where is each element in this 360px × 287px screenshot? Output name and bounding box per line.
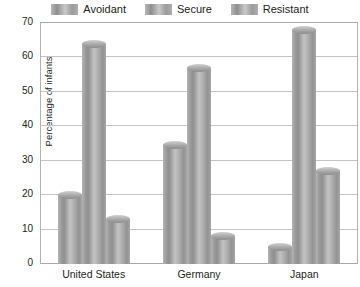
bar-cap	[163, 141, 187, 149]
bar-group-united-states	[41, 23, 146, 264]
bar-body	[292, 30, 316, 264]
x-tick-label-japan: Japan	[252, 268, 357, 280]
bar-avoidant-germany[interactable]	[163, 23, 187, 264]
bar-body	[211, 236, 235, 264]
bars-layer	[41, 23, 357, 264]
bar-cap	[292, 26, 316, 34]
y-axis-tick-labels: 706050403020100	[0, 22, 36, 264]
bar-group-japan	[252, 23, 357, 264]
bar-cap	[82, 40, 106, 48]
bar-body	[58, 195, 82, 264]
legend-item-secure[interactable]: Secure	[145, 4, 212, 15]
chart-legend: Avoidant Secure Resistant	[0, 0, 360, 18]
bar-chart: Avoidant Secure Resistant Percentage of …	[0, 0, 360, 287]
bar-cap	[187, 64, 211, 72]
y-tick-label-20: 20	[22, 189, 33, 199]
y-tick-label-60: 60	[22, 51, 33, 61]
bar-body	[316, 171, 340, 264]
x-tick-label-germany: Germany	[146, 268, 251, 280]
legend-swatch-secure	[145, 4, 172, 15]
bar-body	[82, 44, 106, 264]
bar-cap	[211, 232, 235, 240]
bar-secure-germany[interactable]	[187, 23, 211, 264]
bar-group-germany	[146, 23, 251, 264]
bar-resistant-japan[interactable]	[316, 23, 340, 264]
y-tick-label-10: 10	[22, 224, 33, 234]
bar-body	[163, 145, 187, 264]
bar-avoidant-united-states[interactable]	[58, 23, 82, 264]
legend-label-secure: Secure	[177, 4, 212, 15]
legend-label-resistant: Resistant	[263, 4, 309, 15]
bar-avoidant-japan[interactable]	[268, 23, 292, 264]
legend-label-avoidant: Avoidant	[83, 4, 126, 15]
y-tick-label-0: 0	[27, 258, 33, 268]
y-tick-label-50: 50	[22, 86, 33, 96]
y-tick-label-30: 30	[22, 155, 33, 165]
legend-item-avoidant[interactable]: Avoidant	[51, 4, 126, 15]
bar-cap	[268, 243, 292, 251]
bar-secure-japan[interactable]	[292, 23, 316, 264]
bar-resistant-germany[interactable]	[211, 23, 235, 264]
y-tick-label-70: 70	[22, 17, 33, 27]
bar-secure-united-states[interactable]	[82, 23, 106, 264]
legend-item-resistant[interactable]: Resistant	[231, 4, 309, 15]
bar-body	[187, 68, 211, 264]
legend-swatch-avoidant	[51, 4, 78, 15]
bar-cap	[316, 167, 340, 175]
bar-body	[268, 247, 292, 264]
bar-body	[106, 219, 130, 264]
x-axis-tick-labels: United StatesGermanyJapan	[41, 268, 357, 284]
bar-cap	[58, 191, 82, 199]
bar-cap	[106, 215, 130, 223]
y-tick-label-40: 40	[22, 120, 33, 130]
bar-resistant-united-states[interactable]	[106, 23, 130, 264]
x-tick-label-united-states: United States	[41, 268, 146, 280]
legend-swatch-resistant	[231, 4, 258, 15]
